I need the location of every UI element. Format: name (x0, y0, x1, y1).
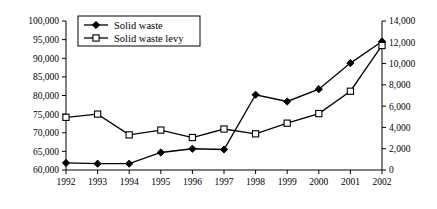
y-axis-right-tick-label: 0 (389, 165, 394, 175)
x-axis-tick-label: 1998 (246, 177, 265, 187)
y-axis-left-tick-label: 100,000 (28, 16, 59, 26)
data-point-solid-waste-levy[interactable] (253, 131, 259, 137)
y-axis-left-tick-label: 85,000 (33, 72, 59, 82)
y-axis-left-tick-label: 70,000 (33, 128, 59, 138)
y-axis-right-tick-label: 6,000 (389, 102, 411, 112)
data-point-solid-waste-levy[interactable] (63, 114, 69, 120)
x-axis-tick-label: 1993 (88, 177, 107, 187)
data-point-solid-waste[interactable] (94, 160, 101, 167)
line-chart: 60,00065,00070,00075,00080,00085,00090,0… (0, 0, 437, 209)
x-axis-tick-label: 2000 (309, 177, 328, 187)
y-axis-right-tick-label: 12,000 (389, 38, 415, 48)
y-axis-right-tick-label: 2,000 (389, 144, 411, 154)
data-point-solid-waste-levy[interactable] (158, 127, 164, 133)
data-point-solid-waste[interactable] (189, 145, 196, 152)
data-point-solid-waste-levy[interactable] (347, 88, 353, 94)
y-axis-right-tick-label: 14,000 (389, 16, 415, 26)
data-point-solid-waste[interactable] (62, 159, 69, 166)
y-axis-right-tick-label: 10,000 (389, 59, 415, 69)
data-point-solid-waste-levy[interactable] (284, 120, 290, 126)
y-axis-left-tick-label: 80,000 (33, 91, 59, 101)
y-axis-left-tick-label: 75,000 (33, 110, 59, 120)
y-axis-left-tick-label: 60,000 (33, 165, 59, 175)
data-point-solid-waste[interactable] (284, 98, 291, 105)
y-axis-left-tick-label: 90,000 (33, 54, 59, 64)
data-point-solid-waste[interactable] (252, 91, 259, 98)
y-axis-left-tick-label: 95,000 (33, 35, 59, 45)
data-point-solid-waste-levy[interactable] (189, 134, 195, 140)
x-axis-tick-label: 1996 (183, 177, 202, 187)
x-axis-tick-label: 1999 (278, 177, 297, 187)
legend-marker-solid-waste-levy (93, 35, 99, 41)
data-point-solid-waste-levy[interactable] (316, 110, 322, 116)
y-axis-right-tick-label: 8,000 (389, 80, 411, 90)
data-point-solid-waste[interactable] (126, 160, 133, 167)
data-point-solid-waste-levy[interactable] (221, 126, 227, 132)
chart-container: 60,00065,00070,00075,00080,00085,00090,0… (0, 0, 437, 209)
x-axis-tick-label: 1997 (215, 177, 234, 187)
data-point-solid-waste-levy[interactable] (95, 111, 101, 117)
x-axis-tick-label: 1995 (151, 177, 170, 187)
series-line-solid-waste-levy (66, 45, 382, 137)
x-axis-tick-label: 1994 (120, 177, 139, 187)
legend-label-solid-waste: Solid waste (114, 20, 163, 31)
data-point-solid-waste[interactable] (220, 146, 227, 153)
data-point-solid-waste-levy[interactable] (379, 42, 385, 48)
x-axis-tick-label: 1992 (57, 177, 76, 187)
data-point-solid-waste-levy[interactable] (126, 132, 132, 138)
y-axis-right-tick-label: 4,000 (389, 123, 411, 133)
x-axis-tick-label: 2001 (341, 177, 360, 187)
x-axis-tick-label: 2002 (373, 177, 392, 187)
data-point-solid-waste[interactable] (157, 149, 164, 156)
legend-label-solid-waste-levy: Solid waste levy (114, 33, 184, 44)
y-axis-left-tick-label: 65,000 (33, 147, 59, 157)
